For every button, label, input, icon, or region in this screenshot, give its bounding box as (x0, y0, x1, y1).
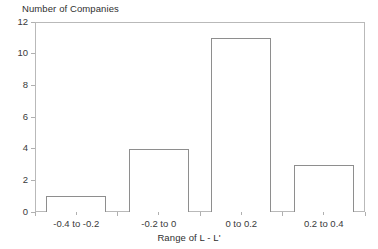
y-tick-mark (31, 53, 35, 54)
x-tick-mark (117, 212, 118, 216)
bar-series (35, 22, 365, 212)
x-tick-mark (200, 212, 201, 216)
bar-slot (283, 22, 366, 212)
y-tick-mark (31, 148, 35, 149)
y-axis-title: Number of Companies (22, 3, 119, 15)
y-tick-mark (31, 22, 35, 23)
y-tick-mark (31, 180, 35, 181)
x-minor-tick-mark (76, 212, 77, 215)
histogram-chart: Number of Companies 024681012 -0.4 to -0… (0, 0, 378, 249)
y-tick-mark (31, 85, 35, 86)
bar-slot (200, 22, 283, 212)
y-tick-label: 10 (17, 47, 28, 59)
x-tick-mark (365, 212, 366, 216)
bar[interactable] (129, 149, 189, 212)
y-tick-label: 2 (23, 174, 28, 186)
y-tick-label: 12 (17, 16, 28, 28)
bar[interactable] (294, 165, 354, 213)
x-minor-tick-mark (158, 212, 159, 215)
y-tick-label: 8 (23, 79, 28, 91)
plot-area (35, 22, 365, 212)
x-tick-label: -0.4 to -0.2 (53, 218, 99, 230)
y-tick-label: 6 (23, 111, 28, 123)
x-tick-label: 0.2 to 0.4 (304, 218, 344, 230)
bar-slot (35, 22, 118, 212)
x-axis-title: Range of L - L' (0, 232, 378, 244)
x-tick-mark (35, 212, 36, 216)
bar[interactable] (211, 38, 271, 212)
x-tick-label: 0 to 0.2 (225, 218, 257, 230)
x-minor-tick-mark (323, 212, 324, 215)
bar-slot (118, 22, 201, 212)
y-tick-label: 4 (23, 142, 28, 154)
x-tick-mark (282, 212, 283, 216)
bar[interactable] (46, 196, 106, 212)
x-tick-label: -0.2 to 0 (141, 218, 176, 230)
y-tick-label: 0 (23, 206, 28, 218)
y-tick-mark (31, 117, 35, 118)
x-minor-tick-mark (241, 212, 242, 215)
